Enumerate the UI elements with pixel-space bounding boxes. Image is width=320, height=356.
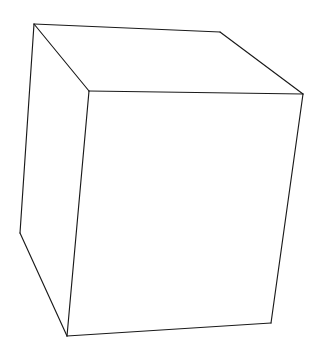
cube-face-front bbox=[67, 91, 303, 336]
cube-wireframe-illustration bbox=[0, 0, 320, 356]
drawing-canvas bbox=[0, 0, 320, 356]
